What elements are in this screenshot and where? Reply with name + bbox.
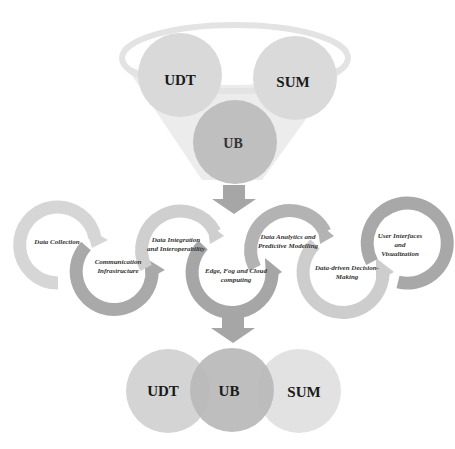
loop-arrow-communication [76, 246, 165, 310]
step-label-edge-fog-cloud: Edge, Fog and Cloud computing [205, 267, 267, 285]
step-label-decision-making: Data-driven Decision- Making [315, 264, 379, 282]
step-label-user-interfaces: User Interfaces and Visualization [373, 232, 428, 259]
result-label-sum: SUM [287, 384, 320, 401]
funnel-label-udt: UDT [164, 72, 196, 89]
down-arrow-icon [212, 185, 256, 214]
step-label-communication: Communication Infrastructure [95, 258, 142, 276]
step-label-data-analytics: Data Analytics and Predictive Modelling [258, 233, 318, 251]
step-label-data-integration: Data Integration and Interoperability [147, 236, 205, 254]
funnel-label-ub: UB [223, 136, 242, 152]
funnel-label-sum: SUM [276, 74, 309, 91]
step-label-data-collection: Data Collection [34, 238, 79, 247]
result-label-ub: UB [219, 383, 240, 400]
result-label-udt: UDT [147, 383, 179, 400]
